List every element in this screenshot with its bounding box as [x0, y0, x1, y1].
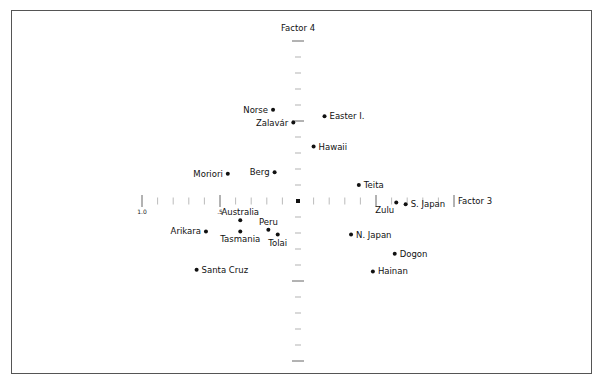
point-label: Hawaii	[319, 142, 347, 152]
point-label: Zulu	[375, 205, 394, 215]
point-label: Santa Cruz	[202, 265, 249, 275]
data-point: Zalavár	[256, 118, 295, 128]
data-point: Hawaii	[312, 142, 347, 152]
point-label: Dogon	[400, 249, 428, 259]
data-point: Zulu	[375, 201, 398, 215]
point-marker	[238, 229, 242, 233]
point-marker	[195, 268, 199, 272]
point-marker	[273, 170, 277, 174]
data-point: Tasmania	[219, 229, 260, 244]
x-tick-label: 1.0	[137, 208, 147, 215]
point-marker	[204, 229, 208, 233]
point-marker	[371, 269, 375, 273]
y-axis-title: Factor 4	[281, 23, 315, 33]
point-marker	[349, 233, 353, 237]
data-point: Peru	[259, 217, 278, 232]
point-label: Norse	[243, 105, 268, 115]
point-label: Peru	[259, 217, 278, 227]
point-marker	[291, 121, 295, 125]
point-marker	[357, 183, 361, 187]
point-marker	[271, 108, 275, 112]
scatter-chart: 1.0.5 Factor 3 Factor 4 NorseZalavárEast…	[0, 0, 603, 382]
point-label: Australia	[221, 207, 259, 217]
x-axis-title: Factor 3	[458, 196, 492, 206]
point-label: Berg	[250, 167, 270, 177]
point-marker	[404, 202, 408, 206]
point-marker	[323, 114, 327, 118]
data-point: Teita	[357, 180, 384, 190]
point-label: Tolai	[267, 238, 287, 248]
point-label: Zalavár	[256, 118, 289, 128]
data-point: Santa Cruz	[195, 265, 249, 275]
data-point: Dogon	[393, 249, 428, 259]
point-label: Easter I.	[330, 111, 365, 121]
point-marker	[226, 172, 230, 176]
point-label: Tasmania	[219, 234, 260, 244]
origin-marker	[296, 199, 300, 203]
point-marker	[312, 145, 316, 149]
data-points: NorseZalavárEaster I.HawaiiBergMorioriTe…	[171, 105, 446, 277]
data-point: Berg	[250, 167, 277, 177]
point-label: Hainan	[378, 266, 408, 276]
point-marker	[393, 252, 397, 256]
point-label: S. Japan	[411, 199, 446, 209]
data-point: Easter I.	[323, 111, 365, 121]
point-label: Teita	[363, 180, 384, 190]
point-label: Arikara	[171, 226, 201, 236]
data-point: Moriori	[193, 169, 229, 179]
data-point: Australia	[221, 207, 259, 222]
point-label: N. Japan	[356, 230, 391, 240]
data-point: Hainan	[371, 266, 408, 276]
point-marker	[276, 233, 280, 237]
point-label: Moriori	[193, 169, 222, 179]
point-marker	[394, 201, 398, 205]
data-point: Arikara	[171, 226, 208, 236]
data-point: Norse	[243, 105, 275, 115]
point-marker	[266, 228, 270, 232]
data-point: S. Japan	[404, 199, 446, 209]
data-point: Tolai	[267, 233, 287, 248]
data-point: N. Japan	[349, 230, 391, 240]
point-marker	[238, 218, 242, 222]
